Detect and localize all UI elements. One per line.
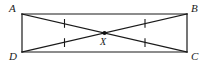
intersection-point-dot xyxy=(102,31,106,35)
vertex-label-b: B xyxy=(191,3,198,14)
vertex-label-c: C xyxy=(191,51,198,62)
vertex-label-a: A xyxy=(9,3,16,14)
intersection-label-x: X xyxy=(100,37,106,47)
geometry-figure: A B C D X xyxy=(0,0,209,66)
figure-canvas xyxy=(0,0,209,66)
vertex-label-d: D xyxy=(9,51,17,62)
